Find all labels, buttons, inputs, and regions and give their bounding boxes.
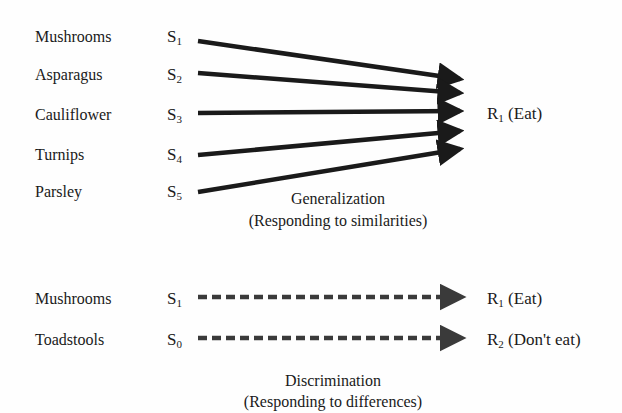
arrow-s1-to-r1 [198,41,460,79]
discrimination-arrows [198,297,462,338]
arrows-layer [0,0,622,413]
generalization-arrows [198,41,460,192]
arrow-s5-to-r1 [198,149,460,192]
stimulus-response-diagram: Mushrooms Asparagus Cauliflower Turnips … [0,0,622,413]
arrow-s3-to-r1 [198,111,460,113]
arrow-s2-to-r1 [198,73,460,93]
arrow-s4-to-r1 [198,131,460,155]
